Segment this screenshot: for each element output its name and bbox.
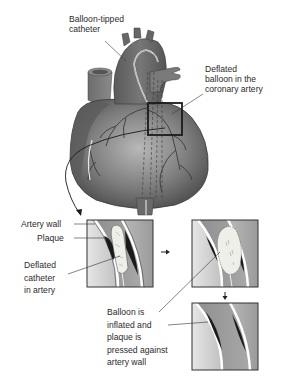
down-arrow	[223, 292, 228, 300]
label-plaque: Plaque	[37, 233, 64, 243]
right-arrow	[161, 250, 170, 255]
label-deflated-balloon: Deflated balloon in the coronary artery	[205, 64, 263, 95]
deflated-catheter-panel	[87, 220, 153, 287]
angioplasty-diagram: Balloon-tipped catheter Deflated balloon…	[0, 0, 289, 382]
heart-illustration	[70, 28, 208, 215]
label-artery-wall: Artery wall	[21, 219, 61, 229]
label-deflated-catheter: Deflated catheter in artery	[24, 259, 56, 297]
inflated-balloon-panel	[192, 220, 258, 287]
widened-artery-panel	[192, 303, 258, 370]
label-balloon-tipped-catheter: Balloon-tipped catheter	[69, 14, 124, 34]
label-balloon-inflated: Balloon is inflated and plaque is presse…	[107, 306, 168, 369]
